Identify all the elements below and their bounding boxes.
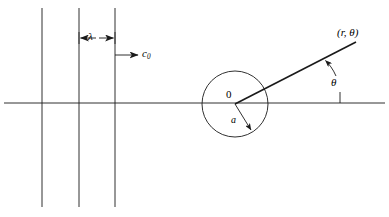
origin-label: 0 [226,89,232,100]
angle-label: θ [331,77,336,88]
radius-arrow [235,104,251,130]
field-point-label: (r, θ) [337,27,358,38]
wave-speed-label: c0 [142,48,151,61]
wave-speed-subscript: 0 [147,53,151,61]
position-vector-ray [235,42,356,104]
radius-label: a [231,115,236,125]
wavelength-label: λ [88,31,93,42]
polar-coordinate-scattering-diagram: λ c0 0 a θ (r, θ) [0,0,389,217]
diagram-canvas [0,0,389,217]
angle-leader-arrow [326,61,337,77]
